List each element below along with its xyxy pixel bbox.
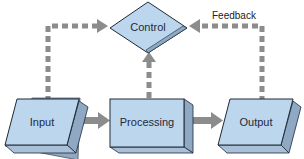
node-label-input: Input (30, 116, 54, 128)
node-input: Input (5, 98, 88, 159)
feedback-label: Feedback (212, 10, 257, 21)
arrowhead-icon (142, 52, 156, 62)
node-label-processing: Processing (120, 116, 174, 128)
arrowhead-icon (189, 19, 200, 33)
node-label-output: Output (239, 116, 272, 128)
arrowhead-icon (97, 19, 108, 33)
node-output: Output (218, 99, 301, 153)
node-label-control: Control (130, 21, 165, 33)
node-processing: Processing (110, 99, 193, 153)
arrowhead-icon (98, 112, 110, 129)
flow-diagram: Feedback Control Input Processing Output (0, 0, 304, 159)
node-control: Control (110, 2, 187, 53)
arrowhead-icon (211, 112, 223, 129)
arrow-processing-output (191, 112, 223, 129)
